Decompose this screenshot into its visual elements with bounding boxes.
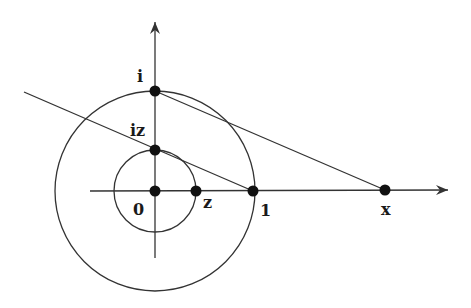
point-z — [191, 186, 202, 197]
line-i-to-x — [155, 91, 385, 190]
label-z: z — [203, 193, 212, 212]
point-i — [150, 86, 161, 97]
points-layer: i iz 0 z 1 x — [130, 67, 391, 220]
label-origin: 0 — [133, 200, 144, 219]
real-axis — [90, 190, 448, 191]
point-one — [248, 186, 259, 197]
complex-plane-diagram: i iz 0 z 1 x — [0, 0, 471, 308]
label-one: 1 — [260, 201, 271, 220]
point-iz — [150, 145, 161, 156]
point-origin — [150, 186, 161, 197]
label-iz: iz — [130, 121, 145, 140]
point-x — [380, 185, 391, 196]
label-x: x — [381, 200, 391, 219]
line-through-iz-and-1 — [24, 92, 253, 191]
label-i: i — [137, 67, 143, 86]
